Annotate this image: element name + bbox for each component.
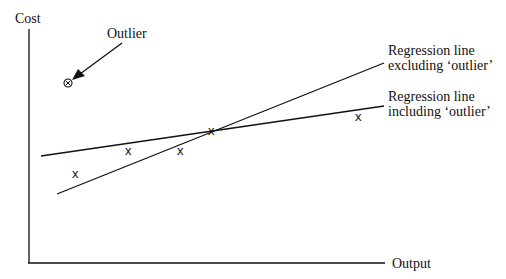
y-axis-label: Cost <box>15 11 41 26</box>
chart-canvas <box>0 0 506 279</box>
data-point-marker: x <box>355 110 362 123</box>
outlier-arrow <box>80 43 122 74</box>
including-line-label-2: including ‘outlier’ <box>388 104 491 119</box>
outlier-label: Outlier <box>107 26 147 41</box>
including-line-label-1: Regression line <box>388 89 475 104</box>
excluding-line-label-1: Regression line <box>388 43 475 58</box>
regression-line-excluding-outlier <box>57 63 384 194</box>
x-axis-label: Output <box>392 256 431 271</box>
data-point-marker: x <box>125 144 132 157</box>
arrow-head-icon <box>72 69 85 80</box>
data-point-marker: x <box>177 144 184 157</box>
data-point-marker: x <box>72 167 79 180</box>
data-point-marker: x <box>208 124 215 137</box>
excluding-line-label-2: excluding ‘outlier’ <box>388 58 493 73</box>
